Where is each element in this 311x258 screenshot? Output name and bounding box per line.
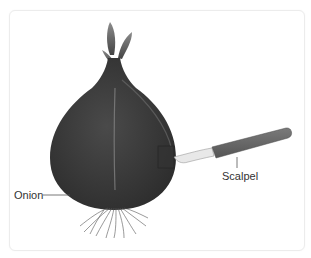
scalpel-icon	[174, 128, 292, 163]
onion-sprout-icon	[102, 22, 132, 64]
onion-roots-icon	[80, 208, 148, 238]
onion-label: Onion	[14, 189, 43, 201]
onion-bulb-icon	[50, 58, 176, 210]
onion-illustration	[0, 0, 311, 258]
scalpel-label: Scalpel	[222, 170, 258, 182]
